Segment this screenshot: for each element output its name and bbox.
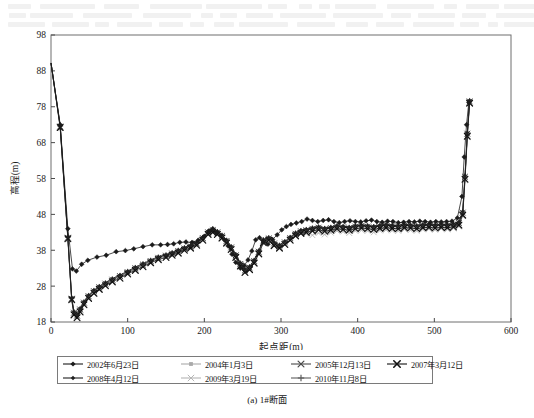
- svg-text:200: 200: [197, 326, 212, 336]
- svg-text:98: 98: [37, 30, 47, 40]
- legend-item-2002年6月23日[interactable]: 2002年6月23日: [62, 357, 139, 371]
- legend-item-2005年12月13日[interactable]: 2005年12月13日: [290, 357, 371, 371]
- svg-text:400: 400: [351, 326, 366, 336]
- legend-marker-diamond-small: [62, 372, 84, 384]
- legend-label: 2002年6月23日: [87, 358, 139, 370]
- figure-caption: (a) 1#断面: [0, 392, 534, 406]
- chart-legend: 2002年6月23日2004年1月3日2005年12月13日2007年3月12日…: [57, 356, 433, 384]
- legend-symbol: [62, 358, 84, 370]
- legend-marker-cross-light: [180, 372, 202, 384]
- svg-text:600: 600: [504, 326, 519, 336]
- legend-row: 2008年4月12日2009年3月19日2010年11月8日: [58, 371, 432, 385]
- svg-text:起点距(m): 起点距(m): [259, 342, 303, 350]
- figure-container: 0100200300400500600182838485868788898 起点…: [0, 0, 534, 418]
- legend-item-2004年1月3日[interactable]: 2004年1月3日: [180, 357, 253, 371]
- legend-item-2007年3月12日[interactable]: 2007年3月12日: [386, 357, 463, 371]
- svg-text:100: 100: [121, 326, 136, 336]
- legend-symbol: [290, 358, 312, 370]
- svg-text:58: 58: [37, 174, 47, 184]
- svg-text:78: 78: [37, 102, 47, 112]
- legend-label: 2010年11月8日: [315, 372, 367, 384]
- legend-marker-cross-bold: [386, 358, 408, 370]
- svg-text:68: 68: [37, 138, 47, 148]
- svg-text:88: 88: [37, 66, 47, 76]
- legend-label: 2004年1月3日: [205, 358, 253, 370]
- legend-row: 2002年6月23日2004年1月3日2005年12月13日2007年3月12日: [58, 357, 432, 371]
- legend-symbol: [386, 358, 408, 370]
- svg-text:38: 38: [37, 246, 47, 256]
- legend-item-2009年3月19日[interactable]: 2009年3月19日: [180, 371, 257, 385]
- svg-text:300: 300: [274, 326, 289, 336]
- legend-marker-diamond: [62, 358, 84, 370]
- legend-item-2008年4月12日[interactable]: 2008年4月12日: [62, 371, 139, 385]
- legend-label: 2008年4月12日: [87, 372, 139, 384]
- svg-text:0: 0: [49, 326, 54, 336]
- legend-label: 2007年3月12日: [411, 358, 463, 370]
- legend-symbol: [180, 358, 202, 370]
- svg-text:18: 18: [37, 317, 47, 327]
- legend-marker-cross: [290, 358, 312, 370]
- svg-text:48: 48: [37, 210, 47, 220]
- legend-label: 2009年3月19日: [205, 372, 257, 384]
- legend-symbol: [290, 372, 312, 384]
- chart-plot-area: 0100200300400500600182838485868788898 起点…: [0, 0, 534, 350]
- svg-text:28: 28: [37, 282, 47, 292]
- legend-marker-plus: [290, 372, 312, 384]
- legend-label: 2005年12月13日: [315, 358, 371, 370]
- legend-symbol: [180, 372, 202, 384]
- legend-marker-square: [180, 358, 202, 370]
- svg-text:高程(m): 高程(m): [9, 162, 21, 196]
- svg-text:500: 500: [427, 326, 442, 336]
- legend-symbol: [62, 372, 84, 384]
- legend-item-2010年11月8日[interactable]: 2010年11月8日: [290, 371, 367, 385]
